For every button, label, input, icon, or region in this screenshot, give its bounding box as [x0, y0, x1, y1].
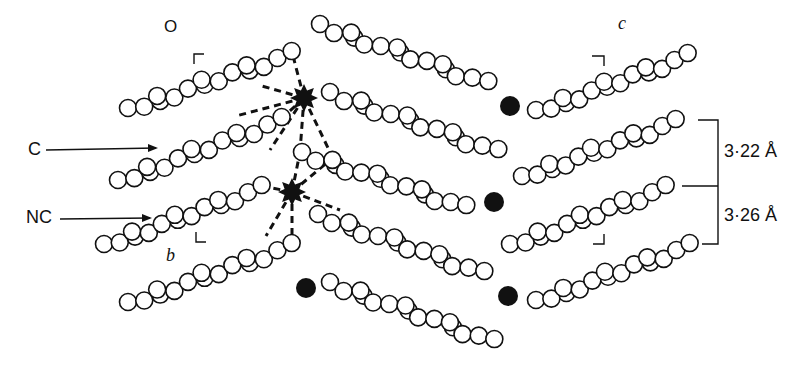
right-chain-1-atom — [541, 155, 558, 172]
middle-chain-0-atom — [372, 38, 389, 55]
middle-chain-2-atom — [353, 164, 370, 181]
middle-chain-0-atom — [447, 68, 464, 85]
left-chain-0-atom — [120, 100, 137, 117]
middle-chain-1-atom — [428, 120, 445, 137]
middle-chain-1-atom — [366, 104, 383, 121]
left-chain-0-atom — [283, 43, 300, 60]
middle-chain-1-atom — [412, 119, 429, 136]
left-chain-1-atom — [183, 141, 200, 158]
right-chain-0-atom — [679, 45, 696, 62]
metal-atom — [498, 286, 518, 306]
right-chain-1-atom — [514, 168, 531, 185]
middle-chain-4-atom — [335, 283, 352, 300]
cell-corner-mark — [593, 234, 604, 244]
middle-chain-3-atom — [353, 226, 370, 243]
spacing-bracket — [698, 120, 718, 244]
spacing-label-322: 3·22 Å — [724, 142, 777, 160]
middle-chain-3-atom — [460, 259, 477, 276]
right-chain-2-atom — [502, 236, 519, 253]
left-chain-3-atom — [193, 264, 210, 281]
left-chain-2-atom — [166, 206, 183, 223]
left-chain-1-atom — [110, 172, 127, 189]
middle-chain-4-atom — [426, 310, 443, 327]
left-chain-2-atom — [96, 236, 113, 253]
metal-atom-coordinated — [290, 84, 318, 112]
middle-chain-2-atom — [382, 177, 399, 194]
middle-chain-4-atom — [365, 294, 382, 311]
middle-chain-3-atom — [370, 228, 387, 245]
middle-chain-4-atom — [486, 331, 503, 348]
nc-arrow-line — [60, 218, 150, 219]
middle-chain-1-atom — [474, 137, 491, 154]
left-chain-2-atom — [124, 223, 141, 240]
cell-corner-mark — [194, 54, 204, 64]
middle-chain-3-atom — [444, 258, 461, 275]
left-chain-2-atom — [210, 191, 227, 208]
left-chain-3-atom — [120, 294, 137, 311]
middle-chain-0-atom — [480, 73, 497, 90]
left-chain-1-atom — [228, 125, 245, 142]
middle-chain-2-atom — [398, 178, 415, 195]
right-chain-0-atom — [637, 59, 654, 76]
nc-arrow-head — [142, 214, 152, 222]
right-chain-0-atom — [528, 102, 545, 119]
right-chain-2-atom — [657, 177, 674, 194]
left-chain-3-atom — [283, 235, 300, 252]
middle-chain-0-atom — [418, 52, 435, 69]
middle-chain-1-atom — [382, 106, 399, 123]
metal-atom-coordinated — [278, 178, 306, 206]
middle-chain-1-atom — [457, 136, 474, 153]
cell-corner-mark — [196, 232, 206, 242]
right-chain-3-atom — [555, 279, 572, 296]
right-chain-1-atom — [582, 139, 599, 156]
right-chain-3-atom — [639, 249, 656, 266]
c-chain-label: C — [28, 140, 41, 158]
left-chain-0-atom — [193, 71, 210, 88]
right-chain-2-atom — [571, 206, 588, 223]
middle-chain-1-atom — [490, 141, 507, 158]
axis-c-label: c — [618, 14, 626, 32]
middle-chain-2-atom — [426, 192, 443, 209]
middle-chain-3-atom — [399, 241, 416, 258]
middle-chain-2-atom — [337, 163, 354, 180]
right-chain-2-atom — [614, 191, 631, 208]
middle-chain-0-atom — [464, 69, 481, 86]
middle-chain-4-atom — [410, 309, 427, 326]
right-chain-0-atom — [554, 89, 571, 106]
structure-drawing — [0, 0, 798, 371]
middle-chain-2-atom — [307, 152, 324, 169]
right-chain-1-atom — [667, 111, 684, 128]
spacing-label-326: 3·26 Å — [724, 206, 777, 224]
middle-chain-0-atom — [325, 25, 342, 42]
cell-corner-mark — [592, 56, 604, 66]
middle-chain-1-atom — [335, 93, 352, 110]
middle-chain-4-atom — [470, 327, 487, 344]
nc-chain-label: NC — [26, 208, 52, 226]
middle-chain-4-atom — [381, 296, 398, 313]
left-chain-2-atom — [253, 177, 270, 194]
middle-chain-0-atom — [402, 51, 419, 68]
left-chain-3-atom — [238, 249, 255, 266]
origin-label: O — [164, 18, 177, 35]
c-arrow-line — [46, 148, 156, 150]
middle-chain-3-atom — [415, 242, 432, 259]
right-chain-2-atom — [529, 223, 546, 240]
left-chain-1-atom — [139, 158, 156, 175]
middle-chain-2-atom — [458, 197, 475, 214]
middle-chain-2-atom — [442, 194, 459, 211]
right-chain-3-atom — [596, 263, 613, 280]
left-chain-3-atom — [149, 281, 166, 298]
crystal-structure-figure: O C NC b c 3·22 Å 3·26 Å — [0, 0, 798, 371]
metal-atom — [296, 278, 316, 298]
middle-chain-4-atom — [454, 326, 471, 343]
left-chain-0-atom — [149, 87, 166, 104]
right-chain-1-atom — [625, 125, 642, 142]
middle-chain-3-atom — [476, 263, 493, 280]
right-chain-0-atom — [596, 73, 613, 90]
metal-atom — [484, 192, 504, 212]
left-chain-0-atom — [238, 57, 255, 74]
middle-chain-3-atom — [323, 215, 340, 232]
right-chain-3-atom — [681, 235, 698, 252]
metal-atom — [500, 96, 520, 116]
left-chain-1-atom — [273, 109, 290, 126]
